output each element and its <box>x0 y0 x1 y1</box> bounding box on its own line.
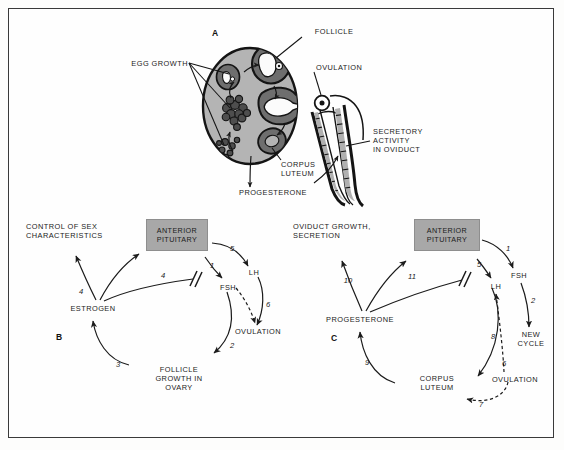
step-number-c-8: 8 <box>491 332 495 341</box>
label-oviduct-growth-secretion: OVIDUCT GROWTH, SECRETION <box>293 222 371 240</box>
anterior-pituitary-box-c: ANTERIOR PITUITARY <box>414 219 480 251</box>
anterior-pituitary-box-b: ANTERIOR PITUITARY <box>146 219 208 251</box>
figure-root: A B C FOLLICLE EGG GROWTH OVULATION SECR… <box>0 0 564 450</box>
panel-letter-b: B <box>56 332 62 342</box>
step-number-c-2: 2 <box>531 296 535 305</box>
label-ovulation-a: OVULATION <box>316 63 362 72</box>
step-number-b-6: 6 <box>266 300 270 309</box>
step-number-c-11: 11 <box>408 272 416 281</box>
label-lh-c: LH <box>491 282 501 291</box>
panel-letter-a: A <box>212 28 218 38</box>
step-number-b-1: 1 <box>210 261 214 270</box>
step-number-b-2: 2 <box>230 341 234 350</box>
label-ovulation-b: OVULATION <box>235 327 281 336</box>
step-number-b-5: 5 <box>230 244 234 253</box>
step-number-b-3: 3 <box>116 360 120 369</box>
panel-letter-c: C <box>331 333 337 343</box>
label-lh-b: LH <box>249 268 259 277</box>
step-number-c-9: 9 <box>365 358 369 367</box>
label-egg-growth: EGG GROWTH <box>131 59 188 68</box>
step-number-c-7: 7 <box>479 400 483 409</box>
label-control-of-sex-characteristics: CONTROL OF SEX CHARACTERISTICS <box>26 222 103 240</box>
step-number-b-4-inhibitory: 4 <box>161 271 165 280</box>
label-corpus-luteum-a: CORPUS LUTEUM <box>281 160 315 178</box>
step-number-c-6: 6 <box>502 359 506 368</box>
label-follicle: FOLLICLE <box>315 27 354 36</box>
label-secretory-activity-in-oviduct: SECRETORY ACTIVITY IN OVIDUCT <box>373 127 423 155</box>
label-ovulation-c: OVULATION <box>492 375 538 384</box>
label-progesterone-c: PROGESTERONE <box>326 315 394 324</box>
anterior-pituitary-label-c: ANTERIOR PITUITARY <box>415 226 479 244</box>
label-estrogen: ESTROGEN <box>70 304 115 313</box>
step-number-c-1: 1 <box>506 244 510 253</box>
label-follicle-growth-in-ovary: FOLLICLE GROWTH IN OVARY <box>155 365 202 393</box>
step-number-c-10: 10 <box>344 276 352 285</box>
label-progesterone-a: PROGESTERONE <box>239 188 307 197</box>
label-new-cycle: NEW CYCLE <box>518 330 545 348</box>
label-corpus-luteum-c: CORPUS LUTEUM <box>420 374 454 392</box>
anterior-pituitary-label-b: ANTERIOR PITUITARY <box>147 226 207 244</box>
step-number-b-4: 4 <box>79 287 83 296</box>
label-fsh-b: FSH <box>220 283 236 292</box>
label-fsh-c: FSH <box>511 271 527 280</box>
step-number-c-5: 5 <box>477 260 481 269</box>
